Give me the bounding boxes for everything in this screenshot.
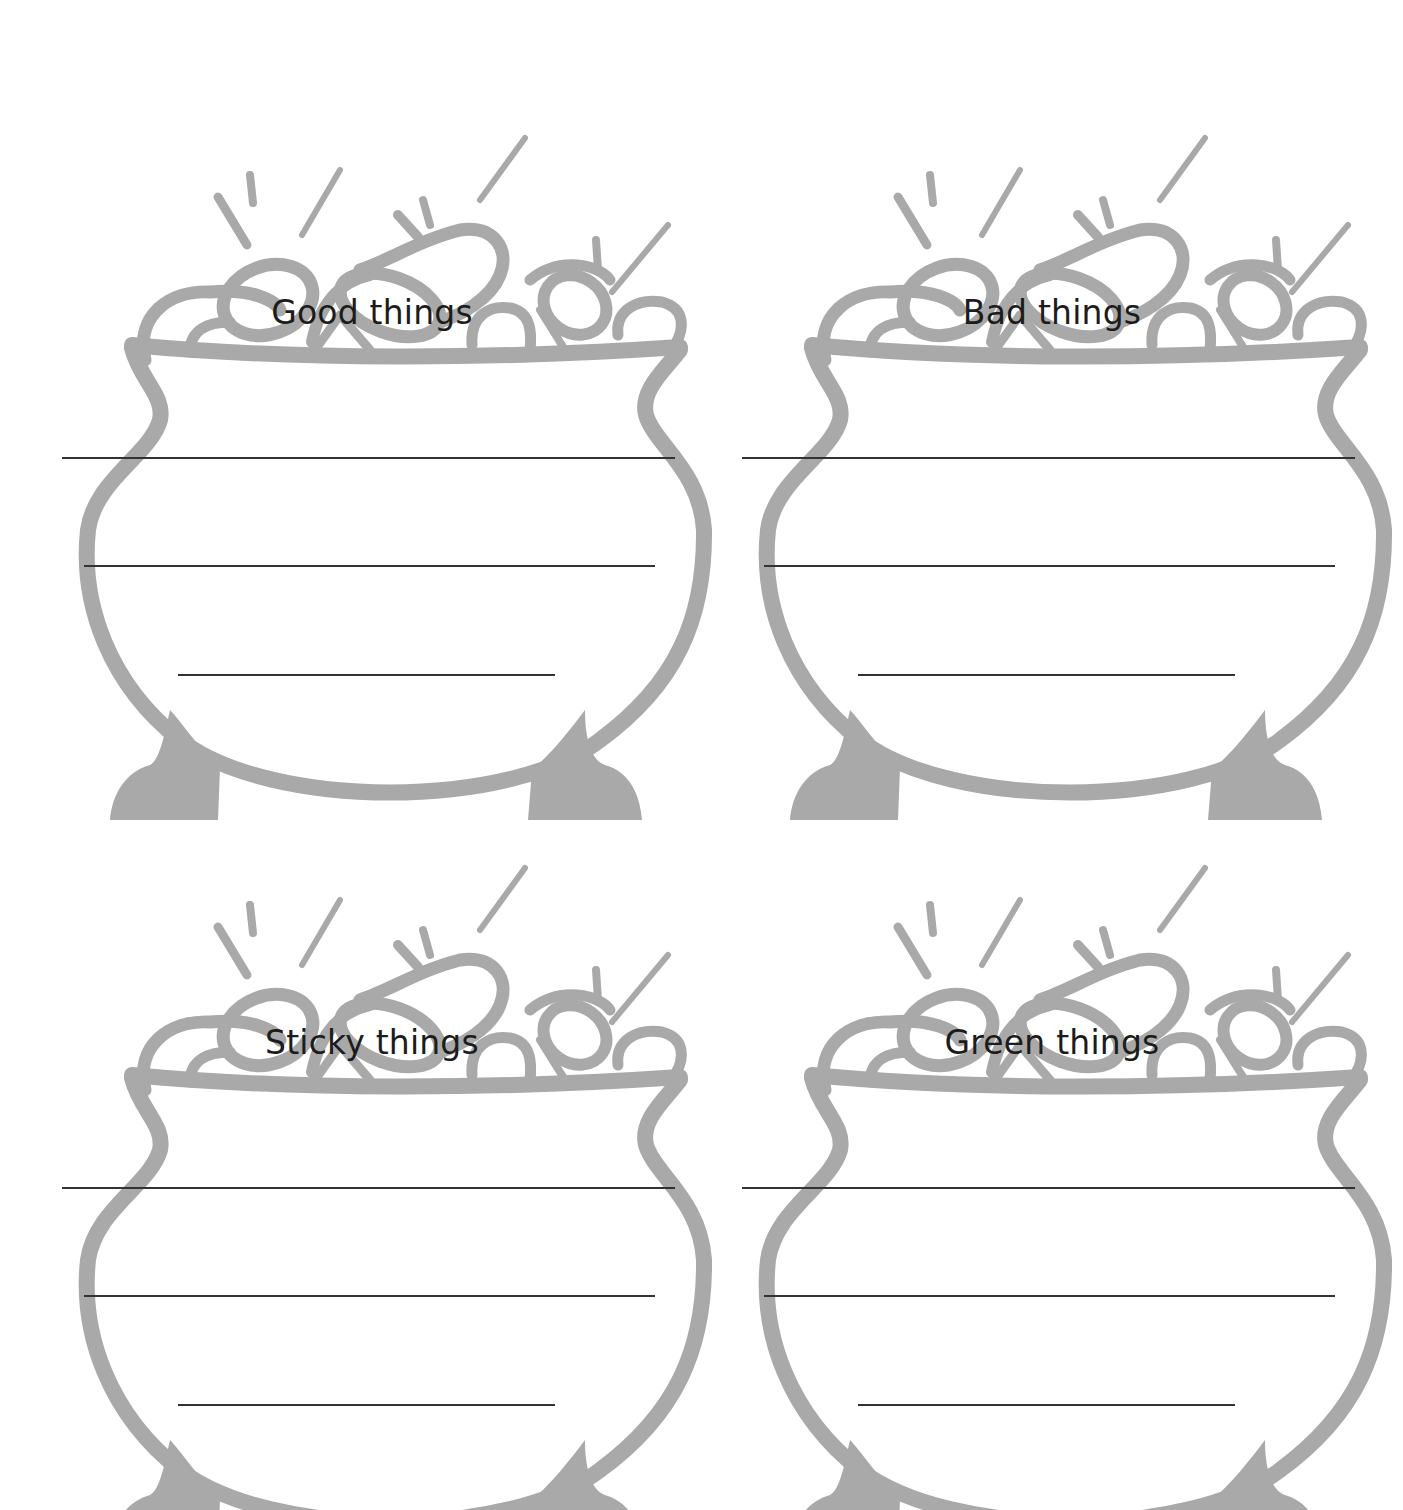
pot-label: Green things [702,1023,1402,1062]
writing-line-1 [62,1187,675,1189]
pot-of-gold-icon [720,60,1403,780]
pot-sticky-things: Sticky things [0,730,700,1450]
writing-line-1 [742,1187,1355,1189]
pot-green-things: Green things [680,730,1380,1450]
writing-line-3 [858,1404,1235,1406]
writing-line-2 [764,565,1335,567]
pot-label: Sticky things [22,1023,722,1062]
writing-line-2 [84,565,655,567]
writing-line-1 [62,457,675,459]
pot-label: Good things [22,293,722,332]
pot-bad-things: Bad things [680,0,1380,720]
pot-label: Bad things [702,293,1402,332]
writing-line-2 [764,1295,1335,1297]
pot-of-gold-icon [720,790,1403,1510]
writing-line-3 [178,1404,555,1406]
pot-of-gold-icon [40,60,740,780]
pot-good-things: Good things [0,0,700,720]
writing-line-3 [858,674,1235,676]
writing-line-3 [178,674,555,676]
writing-line-2 [84,1295,655,1297]
pot-of-gold-icon [40,790,740,1510]
writing-line-1 [742,457,1355,459]
